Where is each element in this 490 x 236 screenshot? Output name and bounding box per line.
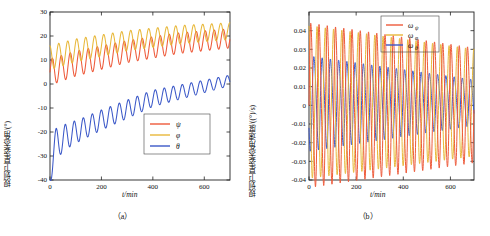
svg-text:0.01: 0.01	[294, 83, 307, 91]
svg-text:600: 600	[445, 183, 456, 191]
panel-b-xlabel: t/min	[370, 190, 385, 199]
svg-text:ψ: ψ	[415, 25, 419, 31]
svg-text:0: 0	[48, 183, 52, 191]
panel-a-xlabel: t/min	[122, 190, 137, 199]
svg-text:200: 200	[96, 183, 107, 191]
panel-b-ylabel: 规划卫星姿态角速度/((°)/s)	[249, 12, 257, 197]
panel-a-caption: （a）	[0, 210, 245, 221]
figure-root: 规划卫星姿态角/(°) 0200400600-40-30-20-10010203…	[0, 0, 490, 236]
svg-text:ω: ω	[408, 21, 413, 30]
panel-a-ylabel: 规划卫星姿态角/(°)	[4, 22, 12, 187]
svg-text:-40: -40	[38, 176, 48, 184]
svg-text:0: 0	[44, 80, 48, 88]
svg-text:600: 600	[199, 183, 210, 191]
svg-text:-30: -30	[38, 152, 48, 160]
svg-text:θ: θ	[176, 142, 180, 151]
panel-b-plot: 0200400600-0.04-0.03-0.02-0.0100.010.020…	[277, 6, 482, 211]
svg-text:ψ: ψ	[176, 120, 181, 129]
svg-text:φ: φ	[176, 131, 180, 140]
svg-text:0: 0	[303, 102, 307, 110]
svg-text:10: 10	[40, 56, 48, 64]
svg-text:-0.03: -0.03	[291, 158, 306, 166]
panel-b: 规划卫星姿态角速度/((°)/s) 0200400600-0.04-0.03-0…	[245, 0, 490, 236]
svg-text:ω: ω	[408, 31, 413, 40]
svg-text:0.03: 0.03	[294, 46, 307, 54]
svg-text:-0.02: -0.02	[291, 139, 306, 147]
svg-text:20: 20	[40, 32, 48, 40]
svg-text:400: 400	[398, 183, 409, 191]
svg-text:30: 30	[40, 8, 48, 16]
svg-text:-20: -20	[38, 128, 48, 136]
svg-text:200: 200	[351, 183, 362, 191]
panel-b-caption: （b）	[245, 210, 490, 221]
svg-text:ω: ω	[408, 41, 413, 50]
svg-text:-0.04: -0.04	[291, 176, 306, 184]
svg-text:0.02: 0.02	[294, 64, 307, 72]
panel-a: 规划卫星姿态角/(°) 0200400600-40-30-20-10010203…	[0, 0, 245, 236]
svg-text:0: 0	[307, 183, 311, 191]
svg-text:0.04: 0.04	[294, 27, 307, 35]
svg-text:-0.01: -0.01	[291, 120, 306, 128]
svg-text:θ: θ	[415, 45, 418, 51]
panel-a-plot: 0200400600-40-30-20-100102030ψφθ	[26, 6, 241, 211]
svg-text:400: 400	[148, 183, 159, 191]
svg-text:-10: -10	[38, 104, 48, 112]
svg-text:φ: φ	[415, 35, 418, 41]
